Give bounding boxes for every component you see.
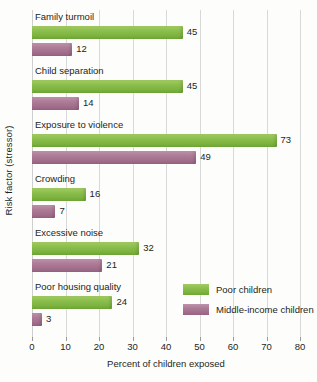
x-tick-label-70: 70 [261,341,272,352]
bar-value-label: 14 [83,96,94,110]
category-label: Poor housing quality [35,280,121,294]
x-tick-label-80: 80 [295,341,306,352]
bar-value-label: 7 [59,204,64,218]
x-tick-label-60: 60 [228,341,239,352]
y-axis-title: Risk factor (stressor) [0,0,18,340]
x-tick-label-20: 20 [94,341,105,352]
category-label: Exposure to violence [35,118,123,132]
bar-value-label: 21 [106,258,117,272]
x-tick-label-30: 30 [127,341,138,352]
bar-rect[interactable] [32,80,183,93]
bar-rect[interactable] [32,259,102,272]
bar-value-label: 3 [46,312,51,326]
y-axis-title-text: Risk factor (stressor) [4,125,15,215]
bar-rect[interactable] [32,242,139,255]
x-tick-label-50: 50 [194,341,205,352]
legend-label-poor-children: Poor children [216,284,272,295]
x-tick-label-0: 0 [29,341,34,352]
bar-rect[interactable] [32,205,55,218]
bar-rect[interactable] [32,26,183,39]
bar-group: Family turmoil4512 [32,10,300,64]
x-tick-label-40: 40 [161,341,172,352]
x-tick-label-10: 10 [60,341,71,352]
bar-rect[interactable] [32,313,42,326]
x-axis-title: Percent of children exposed [32,358,300,369]
bar-value-label: 49 [200,150,211,164]
bar-rect[interactable] [32,188,86,201]
bar-rect[interactable] [32,43,72,56]
bar-value-label: 45 [187,25,198,39]
bar-group: Crowding167 [32,172,300,226]
bar-group: Child separation4514 [32,64,300,118]
category-label: Excessive noise [35,226,103,240]
bar-group: Exposure to violence7349 [32,118,300,172]
legend-label-middle-income-children: Middle-income children [216,304,314,315]
bar-value-label: 45 [187,79,198,93]
legend: Poor children Middle-income children [183,281,313,321]
bar-value-label: 24 [116,295,127,309]
bar-value-label: 32 [143,241,154,255]
bar-group: Excessive noise3221 [32,226,300,280]
bar-value-label: 16 [90,187,101,201]
bar-value-label: 73 [281,133,292,147]
bar-rect[interactable] [32,296,112,309]
category-label: Child separation [35,64,104,78]
x-axis-tick-labels: 01020304050607080 [32,341,300,355]
legend-item-poor-children: Poor children [183,281,313,297]
bar-chart: Risk factor (stressor) Family turmoil451… [0,0,317,382]
category-label: Family turmoil [35,10,94,24]
legend-item-middle-income-children: Middle-income children [183,301,313,317]
legend-swatch-middle-income-children-icon [183,304,209,315]
category-label: Crowding [35,172,75,186]
bar-value-label: 12 [76,42,87,56]
legend-swatch-poor-children-icon [183,284,209,295]
bar-rect[interactable] [32,97,79,110]
bar-rect[interactable] [32,151,196,164]
bar-rect[interactable] [32,134,277,147]
